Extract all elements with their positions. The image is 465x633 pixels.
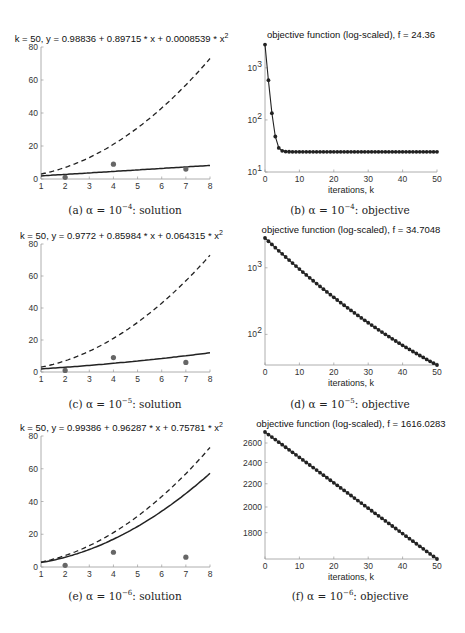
objective-marker xyxy=(280,443,284,447)
objective-marker xyxy=(342,303,346,307)
objective-marker xyxy=(401,343,405,347)
objective-marker xyxy=(263,236,267,240)
x-tick-label: 1 xyxy=(39,374,44,384)
objective-marker xyxy=(377,328,381,332)
x-axis-label: iterations, k xyxy=(328,185,375,195)
solution-curve xyxy=(41,473,210,562)
objective-marker xyxy=(390,337,394,341)
objective-marker xyxy=(363,504,367,508)
objective-marker xyxy=(325,476,329,480)
objective-marker xyxy=(328,293,332,297)
y-tick-label: 60 xyxy=(29,75,39,85)
objective-marker xyxy=(339,486,343,490)
caption-a: (a) α = 10−4: solution xyxy=(68,203,181,216)
objective-marker xyxy=(277,146,281,150)
objective-marker xyxy=(263,430,267,434)
y-tick-label: 40 xyxy=(29,108,39,118)
x-tick-label: 6 xyxy=(159,181,164,191)
objective-curve xyxy=(265,238,437,365)
objective-marker xyxy=(304,150,308,154)
objective-marker xyxy=(311,466,315,470)
y-tick-label: 2200 xyxy=(243,479,262,489)
objective-marker xyxy=(377,150,381,154)
objective-marker xyxy=(353,150,357,154)
objective-marker xyxy=(301,458,305,462)
chart-title: k = 50, y = 0.9772 + 0.85984 * x + 0.064… xyxy=(20,229,223,241)
objective-marker xyxy=(284,255,288,259)
objective-marker xyxy=(408,348,412,352)
y-tick-label: 10 xyxy=(248,263,258,273)
objective-marker xyxy=(318,150,322,154)
objective-marker xyxy=(411,350,415,354)
objective-marker xyxy=(332,481,336,485)
y-tick-label: 2000 xyxy=(243,502,262,512)
x-tick-label: 20 xyxy=(329,561,339,571)
x-tick-label: 8 xyxy=(208,181,213,191)
x-tick-label: 0 xyxy=(263,561,268,571)
objective-marker xyxy=(311,150,315,154)
objective-marker xyxy=(425,357,429,361)
objective-marker xyxy=(414,542,418,546)
objective-marker xyxy=(270,111,274,115)
objective-marker xyxy=(311,279,315,283)
x-axis-label: iterations, k xyxy=(328,572,375,582)
x-tick-label: 30 xyxy=(363,367,373,377)
x-tick-label: 50 xyxy=(432,174,442,184)
y-tick-exponent: 1 xyxy=(257,163,262,173)
objective-marker xyxy=(435,557,439,561)
data-point xyxy=(111,355,116,360)
y-tick-label: 2400 xyxy=(243,458,262,468)
objective-marker xyxy=(363,150,367,154)
x-tick-label: 30 xyxy=(363,174,373,184)
objective-marker xyxy=(408,537,412,541)
data-point xyxy=(63,175,68,180)
x-tick-label: 5 xyxy=(135,181,140,191)
x-tick-label: 6 xyxy=(159,374,164,384)
objective-marker xyxy=(273,246,277,250)
y-tick-label: 20 xyxy=(29,141,39,151)
y-tick-label: 2600 xyxy=(243,438,262,448)
objective-marker xyxy=(418,544,422,548)
objective-marker xyxy=(318,471,322,475)
y-tick-label: 0 xyxy=(33,562,38,572)
objective-marker xyxy=(428,552,432,556)
objective-marker xyxy=(270,435,274,439)
objective-marker xyxy=(304,273,308,277)
x-tick-label: 4 xyxy=(111,374,116,384)
chart-d: 01020304050102103objective function (log… xyxy=(248,224,442,388)
objective-marker xyxy=(387,150,391,154)
objective-marker xyxy=(359,150,363,154)
objective-marker xyxy=(287,448,291,452)
objective-marker xyxy=(408,150,412,154)
objective-marker xyxy=(356,150,360,154)
objective-marker xyxy=(411,539,415,543)
objective-marker xyxy=(325,290,329,294)
caption-c: (c) α = 10−5: solution xyxy=(68,397,181,410)
x-tick-label: 7 xyxy=(183,374,188,384)
objective-marker xyxy=(435,150,439,154)
chart-title: k = 50, y = 0.99386 + 0.96287 * x + 0.75… xyxy=(20,421,223,433)
objective-marker xyxy=(294,150,298,154)
objective-marker xyxy=(370,150,374,154)
caption-d: (d) α = 10−5: objective xyxy=(290,397,410,410)
objective-marker xyxy=(421,356,425,360)
objective-marker xyxy=(346,150,350,154)
y-tick-label: 20 xyxy=(29,529,39,539)
objective-marker xyxy=(298,150,302,154)
objective-marker xyxy=(425,549,429,553)
objective-marker xyxy=(328,478,332,482)
objective-curve xyxy=(265,45,437,152)
objective-marker xyxy=(267,433,271,437)
objective-marker xyxy=(273,438,277,442)
objective-marker xyxy=(335,483,339,487)
objective-marker xyxy=(298,267,302,271)
x-tick-label: 3 xyxy=(87,569,92,579)
objective-marker xyxy=(291,261,295,265)
y-tick-label: 10 xyxy=(248,115,258,125)
x-tick-label: 7 xyxy=(183,181,188,191)
objective-marker xyxy=(346,306,350,310)
x-tick-label: 5 xyxy=(135,374,140,384)
reference-curve xyxy=(41,255,210,367)
data-point xyxy=(63,368,68,373)
x-tick-label: 10 xyxy=(295,367,305,377)
